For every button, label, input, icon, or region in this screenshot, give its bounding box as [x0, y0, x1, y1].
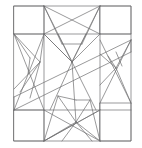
- figure-canvas: [0, 0, 142, 148]
- geometric-line-art: [0, 0, 142, 148]
